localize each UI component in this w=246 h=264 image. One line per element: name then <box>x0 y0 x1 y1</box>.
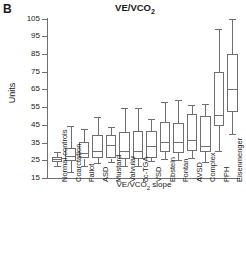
x-category-label-pph: PPH <box>222 167 231 182</box>
lower-whisker <box>219 126 220 151</box>
upper-whisker <box>219 29 220 72</box>
lower-whisker <box>232 112 233 134</box>
x-category-label-eisenmenger: Eisenmenger <box>235 138 244 182</box>
iqr-box <box>187 114 198 150</box>
median-line <box>173 142 184 143</box>
upper-whisker <box>138 108 139 131</box>
chart-root: B VE/VCO2 Units 152535455565758595105 VE… <box>0 0 246 264</box>
x-category-label-cc-tga: cc-TGA <box>141 157 150 182</box>
upper-whisker-cap <box>81 129 88 130</box>
median-line <box>133 151 144 152</box>
iqr-box <box>92 135 103 158</box>
x-category-label-complex: Complex <box>208 152 217 182</box>
upper-whisker <box>111 127 112 135</box>
upper-whisker <box>192 105 193 114</box>
upper-whisker-cap <box>148 119 155 120</box>
x-category-label-fallot: Fallot <box>87 164 96 182</box>
median-line <box>200 146 211 147</box>
upper-whisker <box>178 100 179 123</box>
x-category-label-mustard: Mustard <box>114 155 123 182</box>
upper-whisker-cap <box>229 19 236 20</box>
median-line <box>160 142 171 143</box>
x-category-label-valvular: Valvular <box>128 155 137 182</box>
median-line <box>214 115 225 116</box>
upper-whisker <box>84 129 85 141</box>
lower-whisker <box>192 151 193 158</box>
upper-whisker-cap <box>215 29 222 30</box>
upper-whisker <box>151 119 152 131</box>
upper-whisker <box>125 108 126 132</box>
upper-whisker <box>232 19 233 54</box>
upper-whisker-cap <box>161 102 168 103</box>
lower-whisker <box>71 161 72 172</box>
lower-whisker-cap <box>229 134 236 135</box>
upper-whisker-cap <box>188 105 195 106</box>
upper-whisker <box>98 117 99 135</box>
lower-whisker <box>138 159 139 166</box>
x-category-label-coarctation: Coarctation <box>74 144 83 182</box>
median-line <box>119 151 130 152</box>
upper-whisker-cap <box>67 126 74 127</box>
x-category-label-vsd: VSD <box>154 167 163 182</box>
iqr-box <box>173 123 184 153</box>
x-category-label-asd: ASD <box>101 167 110 182</box>
lower-whisker <box>178 153 179 160</box>
iqr-box <box>214 72 225 126</box>
iqr-box <box>160 122 171 152</box>
upper-whisker <box>205 104 206 116</box>
lower-whisker <box>165 152 166 159</box>
x-category-label-ebstein: Ebstein <box>168 157 177 182</box>
median-line <box>227 89 238 90</box>
lower-whisker <box>84 159 85 167</box>
median-line <box>92 151 103 152</box>
upper-whisker-cap <box>202 104 209 105</box>
lower-whisker <box>205 152 206 162</box>
median-line <box>106 145 117 146</box>
upper-whisker-cap <box>108 127 115 128</box>
upper-whisker-cap <box>121 108 128 109</box>
upper-whisker <box>165 102 166 122</box>
x-category-label-fontan: Fontan <box>181 159 190 182</box>
iqr-box <box>227 54 238 112</box>
median-line <box>146 146 157 147</box>
x-axis-category-labels: Normal controlsCoarctationFallotASDMusta… <box>0 182 246 264</box>
x-category-label-normal-controls: Normal controls <box>60 129 69 182</box>
x-category-label-avsd: AVSD <box>195 162 204 182</box>
upper-whisker-cap <box>175 100 182 101</box>
upper-whisker <box>71 126 72 148</box>
upper-whisker-cap <box>94 117 101 118</box>
upper-whisker-cap <box>135 108 142 109</box>
iqr-box <box>146 131 157 158</box>
median-line <box>187 140 198 141</box>
